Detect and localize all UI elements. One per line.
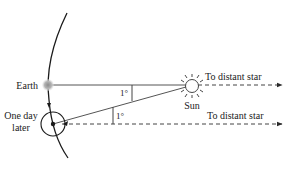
- sidereal-day-diagram: Earth One day later Sun To distant star …: [0, 0, 287, 170]
- to-distant-star-top-label: To distant star: [205, 71, 262, 82]
- one-day-later-label-line2: later: [12, 122, 30, 133]
- earth-later-dot-icon: [51, 122, 55, 126]
- earth-label: Earth: [16, 80, 38, 91]
- sun-icon: [181, 74, 203, 98]
- sun-label: Sun: [184, 100, 200, 111]
- angle-bottom-label: 1°: [116, 111, 125, 121]
- angle-top-label: 1°: [120, 88, 129, 98]
- earth-icon: [42, 79, 54, 91]
- one-day-later-label-line1: One day: [4, 110, 38, 121]
- to-distant-star-bottom-label: To distant star: [207, 110, 264, 121]
